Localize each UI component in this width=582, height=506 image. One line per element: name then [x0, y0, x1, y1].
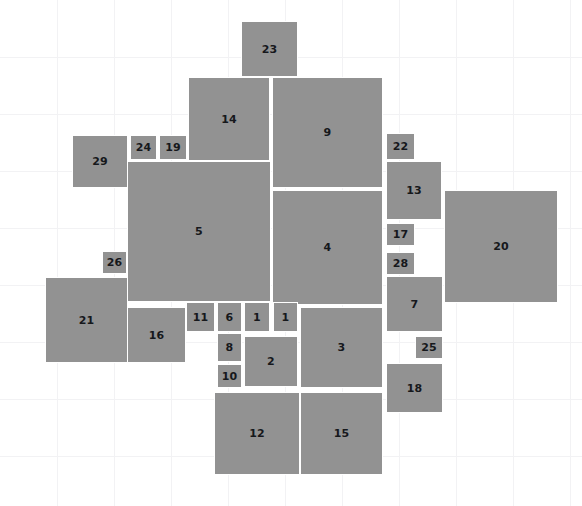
packed-rectangle[interactable]: 5 — [127, 161, 271, 302]
packed-rectangle[interactable]: 14 — [188, 77, 270, 161]
rectangle-label: 9 — [324, 127, 332, 138]
rectangle-label: 11 — [193, 312, 209, 323]
rectangle-label: 18 — [407, 383, 423, 394]
rectangle-label: 15 — [334, 428, 350, 439]
rectangle-layer: 2314929241922135420172826721116113168225… — [0, 0, 582, 506]
rectangle-label: 8 — [226, 342, 234, 353]
rectangle-label: 25 — [421, 342, 437, 353]
rectangle-label: 16 — [149, 330, 165, 341]
packed-rectangle[interactable]: 2 — [244, 336, 298, 387]
packed-rectangle[interactable]: 3 — [300, 307, 383, 388]
rectangle-label: 24 — [136, 142, 152, 153]
packed-rectangle[interactable]: 6 — [217, 302, 242, 332]
packed-rectangle[interactable]: 19 — [159, 135, 187, 160]
packed-rectangle[interactable]: 7 — [386, 276, 443, 332]
rectangle-label: 7 — [411, 299, 419, 310]
rectangle-label: 14 — [221, 114, 237, 125]
packed-rectangle[interactable]: 1 — [244, 302, 270, 332]
rectangle-label: 6 — [226, 312, 234, 323]
rectangle-label: 10 — [222, 371, 238, 382]
packed-rectangle[interactable]: 28 — [386, 252, 415, 275]
rectangle-label: 22 — [393, 141, 409, 152]
packed-rectangle[interactable]: 21 — [45, 277, 128, 363]
packed-rectangle[interactable]: 4 — [272, 190, 383, 305]
packed-rectangle[interactable]: 29 — [72, 135, 128, 188]
packed-rectangle[interactable]: 9 — [272, 77, 383, 188]
packing-diagram-canvas: 2314929241922135420172826721116113168225… — [0, 0, 582, 506]
rectangle-label: 20 — [493, 241, 509, 252]
rectangle-label: 2 — [267, 356, 275, 367]
packed-rectangle[interactable]: 25 — [415, 336, 443, 359]
packed-rectangle[interactable]: 20 — [444, 190, 558, 303]
packed-rectangle[interactable]: 10 — [217, 364, 242, 388]
packed-rectangle[interactable]: 23 — [241, 21, 298, 77]
rectangle-label: 3 — [338, 342, 346, 353]
packed-rectangle[interactable]: 24 — [130, 135, 157, 160]
packed-rectangle[interactable]: 8 — [217, 333, 242, 362]
packed-rectangle[interactable]: 11 — [186, 302, 215, 332]
rectangle-label: 29 — [92, 156, 108, 167]
rectangle-label: 1 — [253, 312, 261, 323]
rectangle-label: 26 — [107, 257, 123, 268]
packed-rectangle[interactable]: 22 — [386, 133, 415, 160]
rectangle-label: 1 — [282, 312, 290, 323]
packed-rectangle[interactable]: 18 — [386, 363, 443, 413]
rectangle-label: 4 — [324, 242, 332, 253]
rectangle-label: 19 — [165, 142, 181, 153]
packed-rectangle[interactable]: 26 — [102, 251, 127, 274]
packed-rectangle[interactable]: 17 — [386, 223, 415, 246]
packed-rectangle[interactable]: 1 — [273, 302, 298, 332]
rectangle-label: 28 — [393, 258, 409, 269]
packed-rectangle[interactable]: 15 — [300, 392, 383, 475]
rectangle-label: 17 — [393, 229, 409, 240]
rectangle-label: 21 — [79, 315, 95, 326]
rectangle-label: 5 — [195, 226, 203, 237]
rectangle-label: 12 — [249, 428, 265, 439]
rectangle-label: 23 — [262, 44, 278, 55]
packed-rectangle[interactable]: 13 — [386, 161, 442, 220]
rectangle-label: 13 — [406, 185, 422, 196]
packed-rectangle[interactable]: 12 — [214, 392, 300, 475]
packed-rectangle[interactable]: 16 — [127, 307, 186, 363]
